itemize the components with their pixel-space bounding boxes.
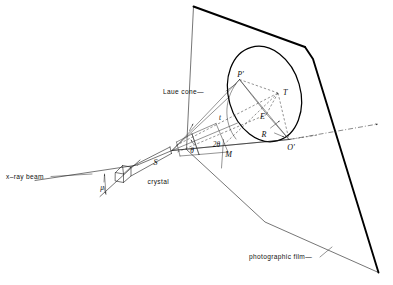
leader-xray-beam (51, 174, 92, 177)
label-point-m: M (224, 150, 233, 159)
label-leaders (51, 84, 332, 257)
label-point-t: T (283, 88, 288, 97)
label-point-p-prime: P' (236, 70, 244, 79)
cone-generator-aux-1 (172, 97, 229, 151)
label-angle-theta: θ (190, 146, 194, 155)
label-xray-beam: x–ray beam (6, 173, 44, 181)
line-e-oprime (267, 114, 290, 140)
crystal-shaft-cap (170, 147, 172, 154)
theta-wedge-top (177, 134, 193, 142)
line-oprime-right (289, 135, 318, 140)
label-point-o-prime: O' (287, 143, 295, 152)
crystal-shaft-top (131, 147, 170, 167)
cone-mouth-near-rim (227, 80, 240, 140)
twotheta-wedge-bottom (199, 152, 228, 155)
cone-halfangle-arrow (190, 124, 194, 131)
line-m-drop (222, 140, 224, 169)
twotheta-wedge-top (192, 124, 216, 135)
label-distance-t: t (219, 114, 222, 122)
beam-axis (35, 124, 378, 197)
leader-photographic-film (320, 247, 332, 257)
label-crystal: crystal (148, 178, 170, 186)
line-pprime-e (240, 80, 267, 115)
label-laue-cone: Laue cone— (163, 88, 204, 95)
figure-root: x–ray beam crystal Laue cone— photograph… (0, 0, 393, 285)
angle-wedges (177, 124, 229, 157)
cone-generator-aux-2 (172, 123, 238, 151)
laue-cone-diagram: x–ray beam crystal Laue cone— photograph… (0, 0, 393, 285)
label-angle-mu: μ (100, 183, 104, 192)
label-angle-two-theta: 2θ (213, 140, 221, 149)
mu-angle-group (104, 174, 106, 195)
label-photographic-film: photographic film— (249, 253, 312, 261)
incoming-beam-line (35, 165, 138, 181)
label-point-r: R (261, 130, 267, 139)
crystal-left-edge (116, 173, 124, 175)
film-edge-right (305, 47, 379, 273)
label-point-s: S (154, 158, 158, 167)
line-m-t (224, 93, 279, 145)
label-point-e: E (259, 112, 265, 121)
film-edge-top (194, 7, 306, 48)
text-labels: x–ray beam crystal Laue cone— photograph… (6, 70, 312, 262)
r-secondary-arrow (275, 133, 285, 137)
